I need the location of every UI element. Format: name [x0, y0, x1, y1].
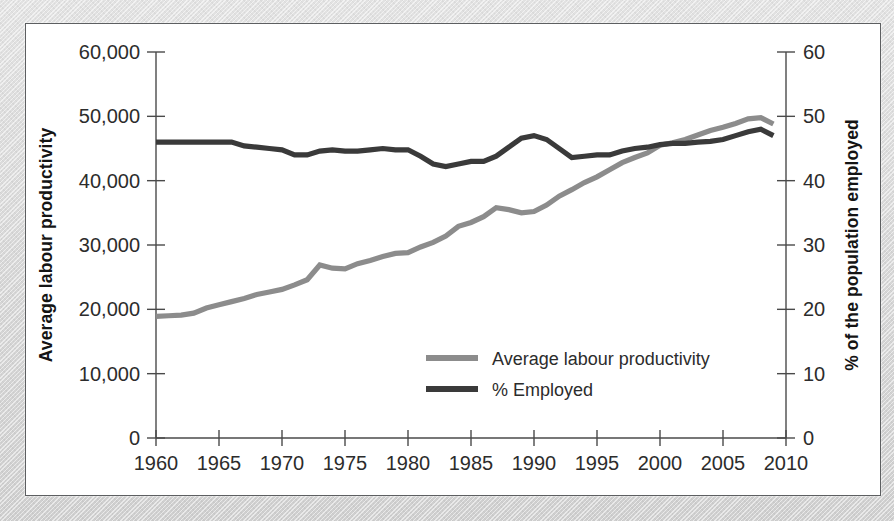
right-axis-tick-label: 20 [803, 298, 825, 320]
left-axis-tick-label: 50,000 [79, 105, 140, 127]
x-axis-tick-label: 1965 [197, 452, 242, 474]
left-axis-tick-label: 30,000 [79, 234, 140, 256]
series-line-2 [156, 129, 773, 166]
legend-label: % Employed [492, 380, 593, 400]
chart-plate: 010,00020,00030,00040,00050,00060,000010… [25, 23, 881, 496]
right-axis-tick-label: 0 [803, 427, 814, 449]
right-axis-tick-label: 50 [803, 105, 825, 127]
left-axis-tick-label: 20,000 [79, 298, 140, 320]
left-axis-tick-label: 0 [129, 427, 140, 449]
right-axis-tick-label: 60 [803, 41, 825, 63]
x-axis-tick-label: 2000 [638, 452, 683, 474]
left-axis-tick-label: 40,000 [79, 170, 140, 192]
right-axis-tick-label: 10 [803, 363, 825, 385]
x-axis-tick-label: 2005 [701, 452, 746, 474]
x-axis-tick-label: 1985 [449, 452, 494, 474]
line-chart: 010,00020,00030,00040,00050,00060,000010… [26, 24, 879, 494]
x-axis-tick-label: 1960 [134, 452, 179, 474]
x-axis-tick-label: 1970 [260, 452, 305, 474]
figure-mount: 010,00020,00030,00040,00050,00060,000010… [0, 0, 894, 521]
right-axis-tick-label: 30 [803, 234, 825, 256]
x-axis-tick-label: 1975 [323, 452, 368, 474]
x-axis-tick-label: 2010 [764, 452, 809, 474]
x-axis-tick-label: 1980 [386, 452, 431, 474]
left-axis-tick-label: 60,000 [79, 41, 140, 63]
left-axis-tick-label: 10,000 [79, 363, 140, 385]
left-axis-title: Average labour productivity [36, 128, 56, 363]
x-axis-tick-label: 1995 [575, 452, 620, 474]
legend-label: Average labour productivity [492, 349, 710, 369]
x-axis-tick-label: 1990 [512, 452, 557, 474]
right-axis-title: % of the population employed [842, 119, 862, 371]
right-axis-tick-label: 40 [803, 170, 825, 192]
